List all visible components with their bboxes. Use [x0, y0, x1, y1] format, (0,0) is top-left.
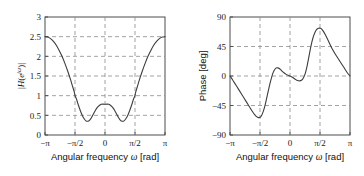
- y-tick-label: 2: [37, 52, 42, 62]
- x-tick-label: −π/2: [67, 138, 84, 148]
- svg-text:|H(ejω)|: |H(ejω)|: [16, 63, 27, 89]
- y-tick-label: 45: [217, 42, 227, 52]
- x-axis-title-prefix: Angular frequency: [236, 151, 316, 162]
- x-tick-label: −π/2: [252, 138, 269, 148]
- x-tick-label: 0: [288, 138, 293, 148]
- x-tick-label: π/2: [314, 138, 326, 148]
- y-tick-label: 2.5: [30, 32, 42, 42]
- x-axis-title-suffix: [rad]: [322, 151, 344, 162]
- x-tick-label: π/2: [129, 138, 141, 148]
- x-axis-title: Angular frequency ω [rad]: [236, 151, 344, 162]
- y-tick-label: 1.5: [30, 71, 42, 81]
- ylabel-bar-close: |: [16, 63, 26, 65]
- y-tick-label: −45: [212, 101, 227, 111]
- x-axis-title-prefix: Angular frequency: [51, 151, 131, 162]
- y-axis-title: Phase [deg]: [197, 51, 208, 102]
- y-tick-label: 90: [217, 12, 227, 22]
- y-tick-label: 0: [222, 71, 227, 81]
- y-tick-label: 0.5: [30, 111, 42, 121]
- y-tick-label: 3: [37, 12, 42, 22]
- x-tick-label: −π: [40, 138, 50, 148]
- phase-plot-svg: −90 −45 0 45 90 −π −π/2 0 π/2 π Angular …: [182, 0, 364, 176]
- x-axis-title-suffix: [rad]: [137, 151, 159, 162]
- x-tick-label: 0: [103, 138, 108, 148]
- x-axis-title: Angular frequency ω [rad]: [51, 151, 159, 162]
- x-tick-label: −π: [225, 138, 235, 148]
- figure-container: 0 0.5 1 1.5 2 2.5 3 −π −π/2 0 π/2 π Angu…: [0, 0, 364, 176]
- x-tick-label: π: [163, 138, 168, 148]
- magnitude-plot-panel: 0 0.5 1 1.5 2 2.5 3 −π −π/2 0 π/2 π Angu…: [0, 0, 182, 176]
- x-tick-label: π: [348, 138, 353, 148]
- y-tick-label: 1: [37, 91, 42, 101]
- magnitude-plot-svg: 0 0.5 1 1.5 2 2.5 3 −π −π/2 0 π/2 π Angu…: [0, 0, 182, 176]
- phase-plot-panel: −90 −45 0 45 90 −π −π/2 0 π/2 π Angular …: [182, 0, 364, 176]
- y-axis-title-text: Phase [deg]: [197, 51, 208, 102]
- y-axis-title: |H(ejω)|: [16, 63, 27, 89]
